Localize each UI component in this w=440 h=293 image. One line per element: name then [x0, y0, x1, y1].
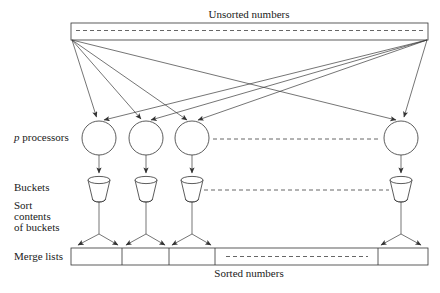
buckets-row [88, 176, 412, 202]
bucket-n-fork-left-arrow [381, 234, 401, 245]
unsorted-numbers-array [71, 23, 428, 40]
bucket-stems [99, 202, 401, 234]
bucket-n-fork-right-arrow [401, 234, 421, 245]
processor-circle-1 [82, 121, 116, 155]
processors-label: p processors [13, 131, 69, 143]
distribute-arrow-left-to-p3 [72, 40, 187, 120]
merge-lists-array [71, 248, 428, 265]
processor-circle-3 [175, 121, 209, 155]
bucket-3-fork-right-arrow [192, 234, 211, 245]
distribute-arrow-left-to-p1 [72, 40, 97, 117]
unsorted-array-box [71, 23, 428, 40]
bucket-n [390, 176, 412, 202]
distribute-arrow-right-to-p2 [151, 40, 427, 120]
distribute-arrow-right-to-pn [404, 40, 427, 117]
distribution-arrows-from-left [72, 40, 396, 120]
bucket-3 [181, 176, 203, 202]
sort-buckets-label-line3: of buckets [14, 221, 60, 233]
processors-row [82, 121, 418, 155]
processors-label-text: processors [20, 131, 69, 143]
processor-circle-n [384, 121, 418, 155]
sorted-numbers-label: Sorted numbers [214, 267, 283, 279]
bucket-1-fork-left-arrow [78, 234, 99, 245]
processor-to-bucket-arrows [99, 155, 401, 173]
processor-circle-2 [129, 121, 163, 155]
merge-lists-label: Merge lists [14, 250, 63, 262]
unsorted-numbers-label: Unsorted numbers [209, 8, 290, 20]
distribute-arrow-left-to-pn [72, 40, 396, 120]
bucket-2-fork-left-arrow [126, 234, 146, 245]
distribute-arrow-left-to-p2 [72, 40, 141, 119]
bucket-1-rim [88, 176, 110, 183]
bucket-3-fork-left-arrow [172, 234, 192, 245]
diagram-canvas: Unsorted numbers p processors [0, 0, 440, 293]
bucket-3-rim [181, 176, 203, 183]
merge-fork-arrows [78, 234, 421, 245]
bucket-2 [135, 176, 157, 202]
sort-buckets-label: Sort contents of buckets [14, 199, 60, 233]
bucket-n-rim [390, 176, 412, 183]
bucket-sort-diagram: Unsorted numbers p processors [0, 0, 440, 293]
bucket-2-fork-right-arrow [146, 234, 165, 245]
bucket-2-rim [135, 176, 157, 183]
bucket-1-fork-right-arrow [99, 234, 118, 245]
distribution-arrows-from-right [104, 40, 427, 120]
buckets-label: Buckets [14, 181, 49, 193]
distribute-arrow-right-to-p1 [104, 40, 427, 120]
bucket-1 [88, 176, 110, 202]
distribute-arrow-right-to-p3 [198, 40, 427, 120]
